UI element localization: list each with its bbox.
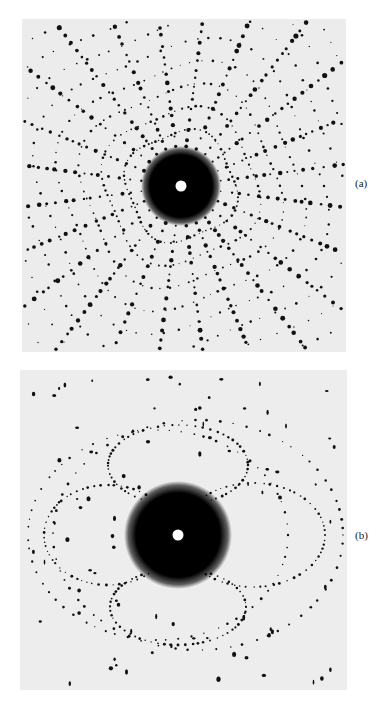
diffraction-spot bbox=[32, 296, 37, 301]
diffraction-spot bbox=[263, 149, 267, 153]
diffraction-spot bbox=[299, 135, 302, 138]
diffraction-spot bbox=[329, 667, 332, 672]
diffraction-spot bbox=[241, 101, 243, 103]
diffraction-spot bbox=[267, 590, 269, 592]
diffraction-spot bbox=[243, 407, 247, 409]
diffraction-spot bbox=[154, 140, 157, 143]
diffraction-spot bbox=[241, 324, 243, 326]
diffraction-spot bbox=[55, 170, 57, 172]
diffraction-spot bbox=[113, 480, 116, 483]
diffraction-spot bbox=[48, 239, 52, 243]
diffraction-spot bbox=[167, 90, 170, 93]
diffraction-spot bbox=[109, 145, 110, 146]
diffraction-spot bbox=[108, 50, 110, 52]
diffraction-spot bbox=[81, 56, 84, 59]
diffraction-spot bbox=[92, 34, 95, 37]
diffraction-spot bbox=[203, 632, 204, 633]
diffraction-spot bbox=[47, 263, 49, 265]
diffraction-spot bbox=[282, 441, 283, 442]
diffraction-spot bbox=[261, 491, 263, 495]
diffraction-spot bbox=[199, 254, 200, 255]
diffraction-spot bbox=[255, 283, 260, 288]
diffraction-spot bbox=[99, 97, 102, 100]
diffraction-spot bbox=[324, 479, 326, 481]
diffraction-spot bbox=[80, 181, 81, 182]
diffraction-spot bbox=[132, 250, 134, 252]
diffraction-spot bbox=[249, 113, 252, 116]
diffraction-spot bbox=[30, 123, 33, 126]
diffraction-spot bbox=[249, 320, 252, 323]
diffraction-spot bbox=[121, 46, 122, 47]
diffraction-spot bbox=[128, 492, 130, 494]
diffraction-spot bbox=[246, 468, 249, 471]
diffraction-spot bbox=[202, 237, 204, 239]
diffraction-spot bbox=[81, 449, 82, 450]
diffraction-spot bbox=[124, 258, 126, 260]
diffraction-spot bbox=[326, 196, 328, 198]
diffraction-spot bbox=[278, 228, 280, 230]
diffraction-spot bbox=[107, 175, 110, 178]
diffraction-spot bbox=[223, 578, 224, 579]
diffraction-spot bbox=[129, 245, 131, 247]
diffraction-spot bbox=[259, 318, 260, 319]
diffraction-spot bbox=[114, 446, 116, 448]
diffraction-spot bbox=[235, 184, 237, 186]
diffraction-spot bbox=[45, 202, 48, 205]
diffraction-spot bbox=[34, 500, 36, 502]
diffraction-spot bbox=[102, 216, 106, 220]
diffraction-spot bbox=[196, 51, 200, 55]
diffraction-spot bbox=[76, 63, 78, 65]
diffraction-spot bbox=[324, 534, 326, 536]
diffraction-spot bbox=[115, 664, 117, 667]
diffraction-spot bbox=[115, 599, 118, 602]
diffraction-spot bbox=[106, 194, 108, 196]
diffraction-spot bbox=[91, 583, 93, 585]
diffraction-spot bbox=[193, 86, 195, 88]
diffraction-spot bbox=[145, 140, 148, 143]
diffraction-spot bbox=[304, 198, 307, 201]
diffraction-spot bbox=[125, 669, 128, 674]
diffraction-spot bbox=[58, 387, 60, 390]
diffraction-spot bbox=[308, 296, 309, 297]
diffraction-spot bbox=[203, 82, 205, 84]
diffraction-spot bbox=[99, 196, 101, 198]
diffraction-spot bbox=[257, 124, 261, 128]
diffraction-spot bbox=[171, 250, 174, 253]
diffraction-spot bbox=[330, 332, 332, 334]
diffraction-spot bbox=[130, 581, 131, 582]
diffraction-spot bbox=[253, 174, 255, 176]
diffraction-spot bbox=[154, 238, 156, 240]
diffraction-spot bbox=[257, 185, 260, 188]
diffraction-spot bbox=[124, 164, 126, 166]
diffraction-spot bbox=[293, 170, 295, 172]
diffraction-spot bbox=[245, 100, 247, 102]
diffraction-spot bbox=[123, 171, 125, 173]
diffraction-spot bbox=[323, 525, 325, 527]
diffraction-spot bbox=[136, 579, 138, 581]
diffraction-spot bbox=[155, 614, 157, 619]
diffraction-spot bbox=[162, 138, 164, 140]
diffraction-spot bbox=[32, 38, 34, 40]
diffraction-spot bbox=[45, 545, 47, 547]
diffraction-spot bbox=[134, 496, 136, 498]
diffraction-spot bbox=[186, 648, 189, 651]
diffraction-spot bbox=[281, 138, 283, 140]
diffraction-spot bbox=[109, 605, 111, 607]
diffraction-spot bbox=[132, 202, 134, 204]
diffraction-spot bbox=[62, 275, 65, 278]
diffraction-spot bbox=[194, 408, 197, 411]
diffraction-spot bbox=[305, 217, 307, 219]
diffraction-spot bbox=[217, 431, 220, 434]
diffraction-spot bbox=[195, 69, 198, 72]
diffraction-spot bbox=[207, 116, 210, 119]
diffraction-spot bbox=[89, 115, 93, 119]
diffraction-spot bbox=[194, 77, 196, 79]
diffraction-spot bbox=[184, 643, 187, 646]
diffraction-spot bbox=[192, 92, 194, 94]
diffraction-spot bbox=[214, 139, 216, 141]
diffraction-spot bbox=[315, 258, 318, 261]
diffraction-spot bbox=[159, 134, 161, 136]
diffraction-spot bbox=[178, 424, 180, 426]
diffraction-spot bbox=[27, 98, 28, 99]
diffraction-spot bbox=[63, 169, 67, 173]
